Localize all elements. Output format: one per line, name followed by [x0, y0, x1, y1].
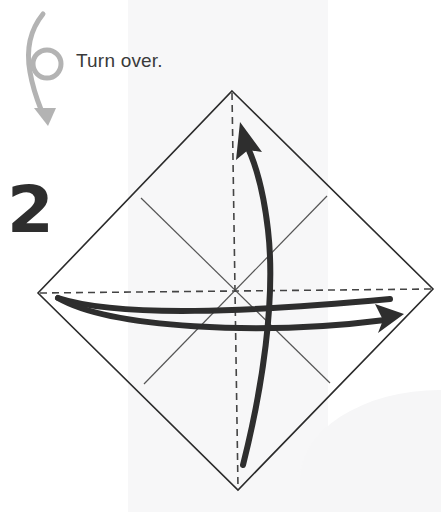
instruction-text: Turn over. — [76, 50, 163, 72]
step-number: 2 — [7, 178, 54, 242]
turn-over-icon — [29, 14, 61, 126]
origami-diagram — [0, 0, 441, 512]
